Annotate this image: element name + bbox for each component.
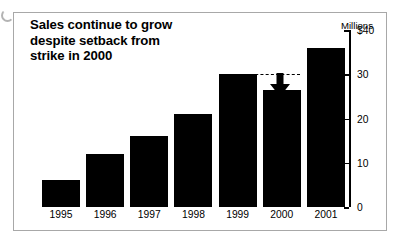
y-tick-label-0: 0 [357,202,363,213]
bar-1996 [86,154,124,207]
bar-2000 [263,90,301,207]
bar-slot [219,30,257,207]
x-tick-label-2001: 2001 [307,209,345,220]
x-tick-label-1998: 1998 [174,209,212,220]
y-tick-40 [344,30,349,32]
bar-slot [130,30,168,207]
y-tick-label-10: 10 [357,157,368,168]
y-tick-30 [344,74,349,76]
x-tick-label-1995: 1995 [42,209,80,220]
x-axis-labels: 1995199619971998199920002001 [42,209,345,220]
y-axis: 0102030$40 [349,30,351,207]
x-tick-label-1996: 1996 [86,209,124,220]
y-tick-label-20: 20 [357,113,368,124]
y-tick-0 [344,207,349,209]
bar-slot [42,30,80,207]
bar-1995 [42,180,80,207]
bar-2001 [307,48,345,207]
bar-1999 [219,74,257,207]
bar-slot [174,30,212,207]
bar-slot [86,30,124,207]
x-tick-label-1999: 1999 [219,209,257,220]
x-tick-label-1997: 1997 [130,209,168,220]
bar-1997 [130,136,168,207]
y-tick-label-30: 30 [357,69,368,80]
bar-1998 [174,114,212,207]
bar-slot [307,30,345,207]
y-tick-20 [344,119,349,121]
y-tick-10 [344,163,349,165]
x-tick-label-2000: 2000 [263,209,301,220]
plot-area [42,30,345,207]
y-tick-label-40: $40 [357,25,374,36]
bars-layer [42,30,345,207]
bar-slot [263,30,301,207]
